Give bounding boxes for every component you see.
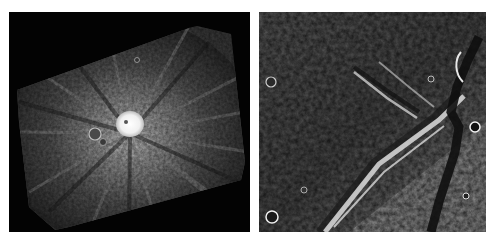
- crater: [266, 77, 276, 87]
- central-peak: [124, 120, 128, 124]
- scarp-terrain-image: [259, 12, 486, 232]
- secondary-crater: [89, 128, 101, 140]
- bright-central-crater: [116, 111, 144, 137]
- rayed-crater-image: [9, 12, 250, 232]
- crater: [428, 76, 434, 82]
- crater: [301, 187, 307, 193]
- secondary-crater: [100, 139, 107, 146]
- crater: [463, 193, 469, 199]
- image-footprint: [9, 12, 250, 232]
- crater: [266, 211, 278, 223]
- secondary-crater: [135, 58, 140, 63]
- crater: [470, 122, 480, 132]
- scarp-terrain-image-panel: [259, 12, 486, 232]
- crater-image-panel: [9, 12, 250, 232]
